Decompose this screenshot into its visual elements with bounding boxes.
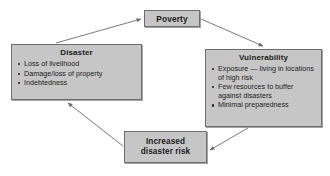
bullet-dot-icon xyxy=(18,73,20,75)
list-item: Exposure — living in locations of high r… xyxy=(218,65,316,82)
list-item: Indebtedness xyxy=(24,79,136,88)
bullet-dot-icon xyxy=(18,82,20,84)
arrow-vulnerability-to-increased-risk xyxy=(210,128,248,150)
node-increased-disaster-risk-title: Increased disaster risk xyxy=(129,137,202,157)
list-item-label: Minimal preparedness xyxy=(218,100,289,109)
list-item: Minimal preparedness xyxy=(218,101,316,110)
bullet-dot-icon xyxy=(212,104,214,106)
arrow-poverty-to-vulnerability xyxy=(201,19,263,46)
list-item-label: Loss of livelihood xyxy=(24,59,79,68)
cycle-diagram-canvas: Poverty Disaster Loss of livelihood Dama… xyxy=(0,0,330,176)
arrow-disaster-to-poverty xyxy=(56,19,141,43)
node-vulnerability-title: Vulnerability xyxy=(209,53,318,63)
list-item-label: Few resources to buffer against disaster… xyxy=(218,82,293,100)
node-increased-disaster-risk[interactable]: Increased disaster risk xyxy=(124,131,207,163)
node-poverty[interactable]: Poverty xyxy=(144,10,200,27)
node-disaster[interactable]: Disaster Loss of livelihood Damage/loss … xyxy=(11,44,142,100)
list-item: Loss of livelihood xyxy=(24,60,136,69)
list-item: Few resources to buffer against disaster… xyxy=(218,83,316,100)
bullet-dot-icon xyxy=(18,63,20,65)
list-item: Damage/loss of property xyxy=(24,70,136,79)
arrow-increased-risk-to-disaster xyxy=(68,103,123,146)
bullet-dot-icon xyxy=(212,86,214,88)
list-item-label: Exposure — living in locations of high r… xyxy=(218,64,314,82)
node-disaster-bullets: Loss of livelihood Damage/loss of proper… xyxy=(15,60,138,88)
node-vulnerability[interactable]: Vulnerability Exposure — living in locat… xyxy=(205,49,322,127)
node-poverty-title: Poverty xyxy=(156,14,187,24)
node-disaster-title: Disaster xyxy=(15,48,138,58)
list-item-label: Indebtedness xyxy=(24,78,67,87)
list-item-label: Damage/loss of property xyxy=(24,69,102,78)
node-vulnerability-bullets: Exposure — living in locations of high r… xyxy=(209,65,318,110)
bullet-dot-icon xyxy=(212,68,214,70)
